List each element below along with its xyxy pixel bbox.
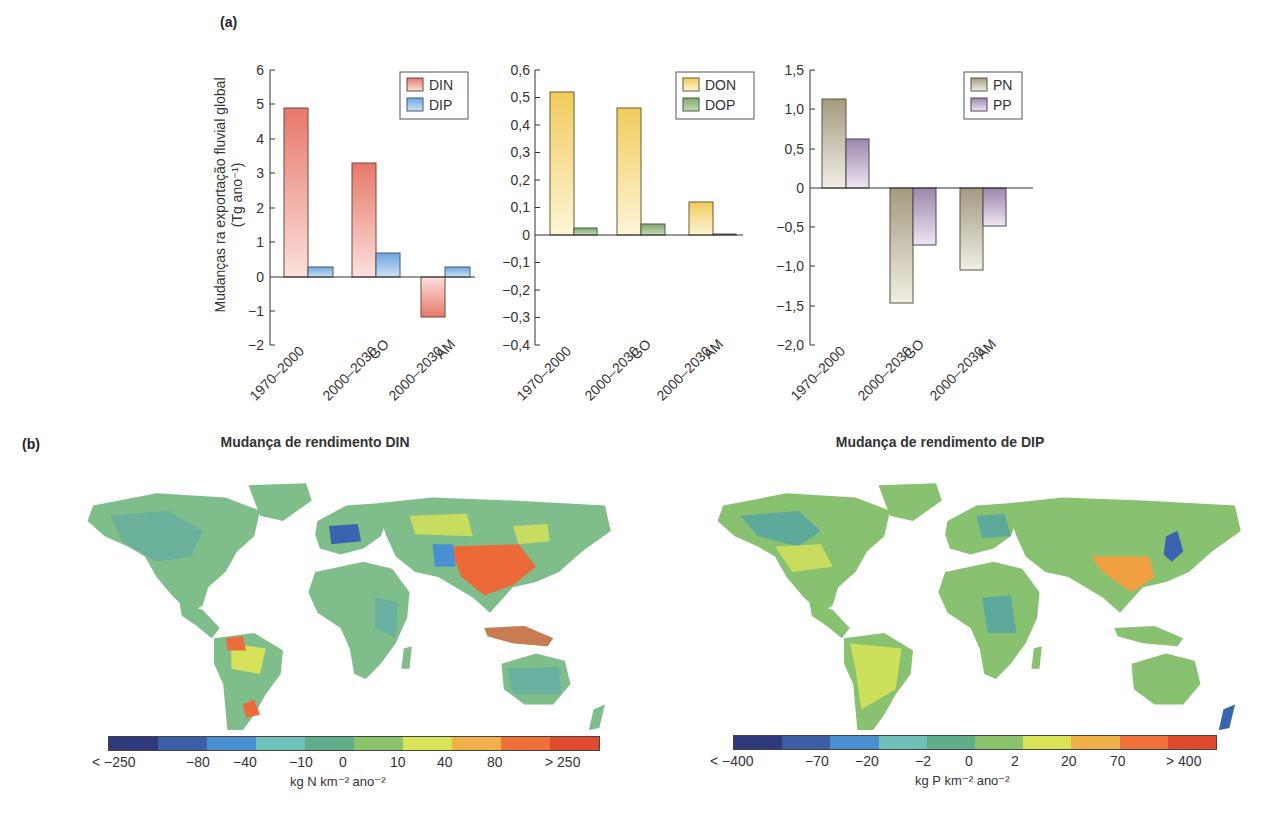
svg-text:−1,0: −1,0 xyxy=(776,258,804,274)
cb-din-tick-0: < −250 xyxy=(92,754,136,770)
svg-text:0,4: 0,4 xyxy=(511,117,531,133)
bar-pp-2000-2030-am xyxy=(983,188,1006,226)
cb-dip-tick-2: −20 xyxy=(855,753,879,769)
y-ticks xyxy=(270,70,275,345)
bar-pp-1970-2000 xyxy=(846,139,869,188)
cb-din-tick-6: 40 xyxy=(437,754,453,770)
svg-text:1: 1 xyxy=(256,234,264,250)
svg-text:Mudanças ra exportação fluvial: Mudanças ra exportação fluvial global xyxy=(212,77,228,312)
svg-text:DIP: DIP xyxy=(429,97,452,113)
bar-charts: Mudanças ra exportação fluvial global (T… xyxy=(0,0,1287,430)
bar-dip-1970-2000 xyxy=(308,267,333,277)
cb-dip-tick-3: −2 xyxy=(915,753,931,769)
svg-text:1,5: 1,5 xyxy=(785,62,805,78)
svg-text:DIN: DIN xyxy=(429,77,453,93)
bar-pp-2000-2030-go xyxy=(913,188,936,245)
cb-dip-tick-0: < −400 xyxy=(710,753,754,769)
cb-dip-tick-6: 20 xyxy=(1061,753,1077,769)
cb-din-unit: kg N km⁻² ano⁻² xyxy=(290,774,386,789)
map-title-din: Mudança de rendimento DIN xyxy=(115,434,515,450)
svg-text:(Tg ano⁻¹): (Tg ano⁻¹) xyxy=(229,163,245,228)
svg-text:−0,5: −0,5 xyxy=(776,219,804,235)
y-axis-label: Mudanças ra exportação fluvial global (T… xyxy=(212,77,245,312)
svg-text:0,5: 0,5 xyxy=(511,89,531,105)
cb-din-tick-7: 80 xyxy=(487,754,503,770)
svg-text:0,3: 0,3 xyxy=(511,144,531,160)
svg-text:−2: −2 xyxy=(248,337,264,353)
svg-text:−0,1: −0,1 xyxy=(502,254,530,270)
svg-text:0,6: 0,6 xyxy=(511,62,531,78)
chart-don-dop: 0,6 0,5 0,4 0,3 0,2 0,1 0 −0,1 −0,2 −0,3… xyxy=(502,62,754,404)
svg-text:5: 5 xyxy=(256,96,264,112)
legend-don-dop: DON DOP xyxy=(676,72,754,119)
bar-dip-2000-2030-am xyxy=(445,267,470,277)
map-dip xyxy=(718,483,1241,730)
svg-text:0,1: 0,1 xyxy=(511,199,531,215)
map-din xyxy=(88,483,611,730)
svg-text:PN: PN xyxy=(993,77,1012,93)
bar-pn-1970-2000 xyxy=(822,99,846,188)
chart-pn-pp: 1,5 1,0 0,5 0 −0,5 −1,0 −1,5 −2,0 PN PP … xyxy=(776,62,1033,404)
svg-text:−0,4: −0,4 xyxy=(502,337,530,353)
bar-don-1970-2000 xyxy=(550,92,574,235)
svg-text:0: 0 xyxy=(256,269,264,285)
cb-dip-tick-8: > 400 xyxy=(1166,753,1201,769)
svg-text:0: 0 xyxy=(522,227,530,243)
cb-dip-unit: kg P km⁻² ano⁻² xyxy=(915,773,1010,788)
cb-din-tick-1: −80 xyxy=(186,754,210,770)
colorbar-dip xyxy=(733,735,1217,750)
bar-dip-2000-2030-go xyxy=(376,253,400,277)
cb-din-tick-4: 0 xyxy=(339,754,347,770)
svg-text:−1,5: −1,5 xyxy=(776,298,804,314)
panel-b-label: (b) xyxy=(22,436,40,452)
map-title-dip: Mudança de rendimento de DIP xyxy=(740,434,1140,450)
chart-din-dip: 6 5 4 3 2 1 0 −1 −2 DIN DIP 1970–2000 20… xyxy=(246,62,475,404)
cb-dip-tick-7: 70 xyxy=(1110,753,1126,769)
svg-text:0,2: 0,2 xyxy=(511,172,531,188)
svg-text:PP: PP xyxy=(993,97,1012,113)
bar-don-2000-2030-am xyxy=(689,202,713,235)
svg-text:−1: −1 xyxy=(248,303,264,319)
svg-text:4: 4 xyxy=(256,131,264,147)
bar-dop-2000-2030-go xyxy=(641,224,665,235)
svg-text:6: 6 xyxy=(256,62,264,78)
cb-dip-tick-4: 0 xyxy=(965,753,973,769)
svg-text:0,5: 0,5 xyxy=(785,141,805,157)
cb-din-tick-3: −10 xyxy=(289,754,313,770)
svg-text:−0,3: −0,3 xyxy=(502,309,530,325)
world-maps xyxy=(0,460,1287,730)
cb-din-tick-8: > 250 xyxy=(545,754,580,770)
cb-din-tick-5: 10 xyxy=(390,754,406,770)
bar-din-2000-2030-am xyxy=(421,277,445,317)
cb-dip-tick-1: −70 xyxy=(805,753,829,769)
colorbar-din xyxy=(108,736,600,751)
cb-din-tick-2: −40 xyxy=(233,754,257,770)
svg-text:0: 0 xyxy=(796,180,804,196)
svg-text:2: 2 xyxy=(256,200,264,216)
legend-pn-pp: PN PP xyxy=(964,72,1022,119)
bar-pn-2000-2030-am xyxy=(960,188,983,270)
svg-text:3: 3 xyxy=(256,165,264,181)
bar-din-2000-2030-go xyxy=(352,163,376,277)
legend-din-dip: DIN DIP xyxy=(400,72,468,119)
bar-pn-2000-2030-go xyxy=(890,188,913,303)
bar-dop-1970-2000 xyxy=(574,228,597,235)
bar-don-2000-2030-go xyxy=(617,108,641,235)
svg-text:DOP: DOP xyxy=(705,97,735,113)
bar-din-1970-2000 xyxy=(284,108,308,277)
svg-text:−2,0: −2,0 xyxy=(776,337,804,353)
svg-text:DON: DON xyxy=(705,77,736,93)
svg-text:1,0: 1,0 xyxy=(785,101,805,117)
svg-text:−0,2: −0,2 xyxy=(502,282,530,298)
cb-dip-tick-5: 2 xyxy=(1011,753,1019,769)
